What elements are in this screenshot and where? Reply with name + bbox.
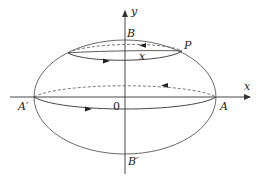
parallel-circle-label: x bbox=[139, 51, 145, 62]
point-P-label: P bbox=[184, 40, 191, 51]
parallel-front-arrow-icon bbox=[103, 59, 110, 64]
point-A-prime-label: A′ bbox=[18, 101, 28, 112]
point-A-label: A bbox=[220, 101, 228, 112]
ellipsoid-diagram: y x 0 B B′ A A′ P x bbox=[0, 0, 259, 176]
point-B-label: B bbox=[127, 28, 135, 39]
parallel-back-arrow-icon bbox=[139, 43, 146, 48]
equator-front-arrow-icon bbox=[85, 107, 92, 112]
y-axis-label: y bbox=[131, 6, 137, 17]
point-B-prime-label: B′ bbox=[128, 156, 139, 167]
origin-label: 0 bbox=[113, 101, 120, 112]
x-axis-label: x bbox=[244, 81, 250, 92]
